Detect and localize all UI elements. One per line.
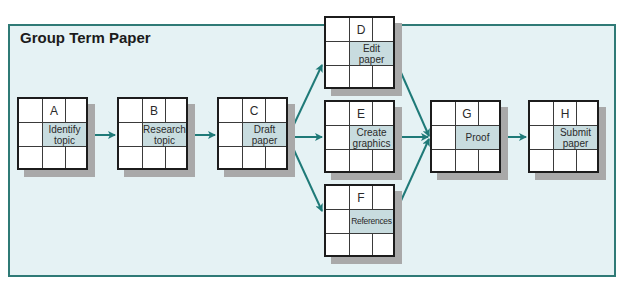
node-label: Identify topic bbox=[43, 123, 86, 147]
node-label: Research topic bbox=[143, 123, 186, 147]
node-c[interactable]: C Draft paper bbox=[217, 97, 288, 170]
node-id: D bbox=[350, 18, 373, 42]
node-id: H bbox=[554, 102, 577, 126]
node-id: C bbox=[243, 99, 266, 123]
node-d[interactable]: D Edit paper bbox=[324, 16, 395, 89]
node-id: A bbox=[43, 99, 66, 123]
node-h[interactable]: H Submit paper bbox=[528, 100, 599, 173]
node-id: G bbox=[456, 102, 479, 126]
node-label: Edit paper bbox=[350, 42, 393, 66]
node-id: F bbox=[350, 186, 373, 210]
node-label: Submit paper bbox=[554, 126, 597, 150]
node-label: Draft paper bbox=[243, 123, 286, 147]
node-id: E bbox=[350, 102, 373, 126]
node-b[interactable]: B Research topic bbox=[117, 97, 188, 170]
node-a[interactable]: A Identify topic bbox=[17, 97, 88, 170]
node-g[interactable]: G Proof bbox=[430, 100, 501, 173]
node-label: Create graphics bbox=[350, 126, 393, 150]
node-e[interactable]: E Create graphics bbox=[324, 100, 395, 173]
node-label: References bbox=[350, 210, 393, 234]
node-f[interactable]: F References bbox=[324, 184, 395, 257]
node-id: B bbox=[143, 99, 166, 123]
node-label: Proof bbox=[456, 126, 499, 150]
